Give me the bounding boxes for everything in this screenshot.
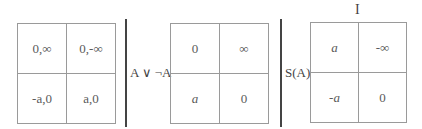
separator-line [125, 19, 127, 127]
matrix-cell: a,0 [67, 74, 115, 123]
matrix-cell: 0 [220, 74, 268, 123]
matrix-cell: a [171, 74, 219, 123]
matrix-cell: 0,-∞ [67, 24, 115, 73]
matrix-cell: ∞ [220, 24, 268, 73]
matrix-cell: -a [311, 73, 358, 122]
matrix-cell: 0 [171, 24, 219, 73]
payoff-matrix-1: 0,∞ 0,-∞ -a,0 a,0 [17, 23, 116, 124]
matrix-cell: -∞ [359, 23, 406, 72]
top-label: I [355, 2, 360, 18]
matrix-cell: 0 [359, 73, 406, 122]
matrix-cell: -a,0 [18, 74, 66, 123]
payoff-matrix-3: a -∞ -a 0 [310, 22, 407, 123]
matrix-cell: 0,∞ [18, 24, 66, 73]
matrix-cell: a [311, 23, 358, 72]
payoff-matrix-2: 0 ∞ a 0 [170, 23, 269, 124]
row-label-a-or-not-a: A ∨ ¬A [130, 65, 171, 81]
separator-line [280, 19, 282, 127]
row-label-s-a: S(A) [285, 65, 310, 81]
